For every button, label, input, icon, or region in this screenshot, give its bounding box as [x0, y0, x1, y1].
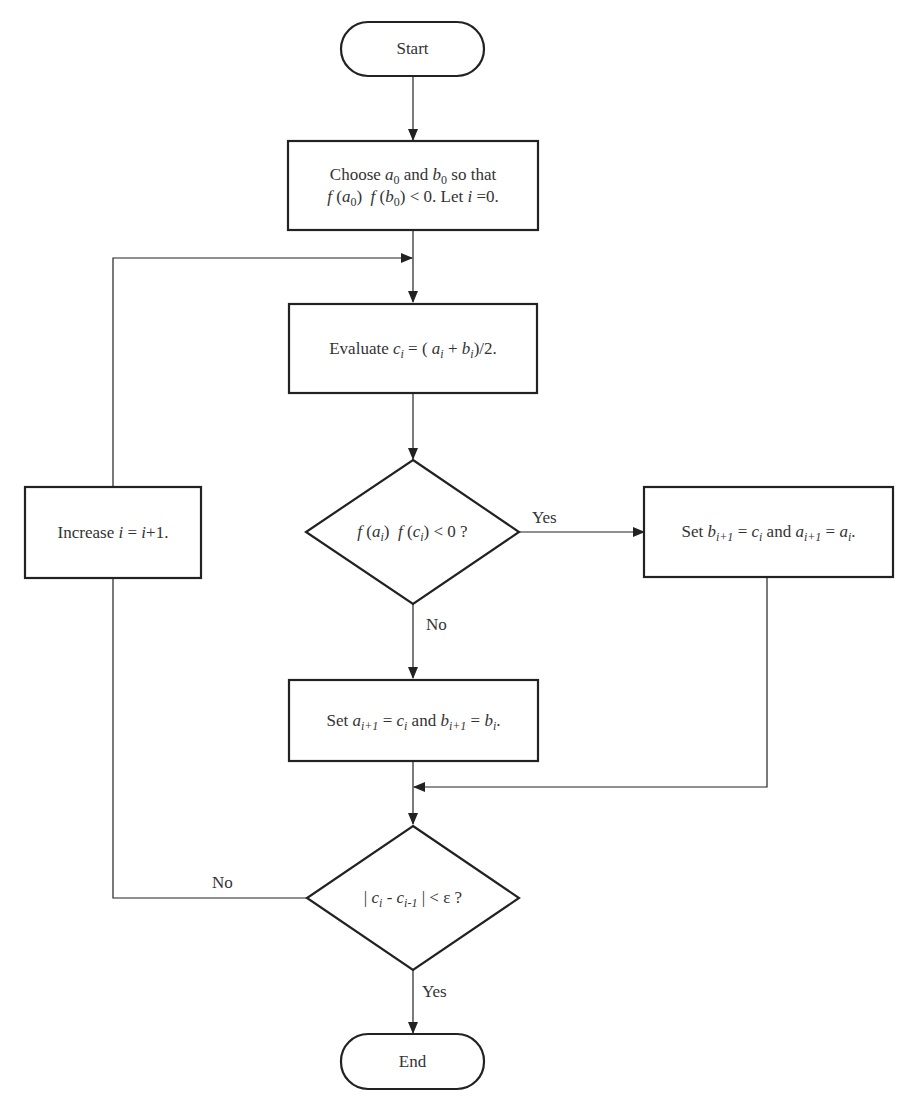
var-a: a [839, 522, 848, 541]
sub: 0 [350, 195, 356, 209]
sub: i+1 [716, 530, 733, 544]
edge-label-sign-yes: Yes [532, 508, 557, 528]
check-sign-node: f (ai) f (ci) < 0 ? [306, 460, 519, 604]
evaluate-text: Evaluate ci = ( ai + bi)/2. [329, 338, 497, 360]
init-text: < 0. Let [410, 187, 468, 206]
text: +1. [146, 523, 168, 542]
var-c: c [396, 711, 404, 730]
text: - [382, 888, 396, 907]
func-f: f [371, 187, 376, 206]
var-c: c [751, 522, 759, 541]
sub: 0 [394, 195, 400, 209]
evaluate-node: Evaluate ci = ( ai + bi)/2. [289, 304, 537, 393]
increase-text: Increase i = i+1. [58, 522, 169, 544]
text: Set [681, 522, 707, 541]
var-a: a [372, 522, 381, 541]
check-conv-node: | ci - ci-1 | < ε ? [307, 826, 519, 970]
init-text: so that [447, 165, 496, 184]
func-f: f [398, 522, 403, 541]
var-c: c [397, 888, 405, 907]
text: = [123, 523, 141, 542]
start-label: Start [396, 38, 428, 60]
start-node: Start [341, 22, 484, 76]
var-a: a [795, 522, 804, 541]
text: = [466, 711, 484, 730]
var-b: b [385, 187, 394, 206]
edge-label-conv-no: No [212, 873, 233, 893]
check-conv-text: | ci - ci-1 | < ε ? [364, 887, 462, 909]
text: | [364, 888, 372, 907]
text: Increase [58, 523, 119, 542]
func-f: f [327, 187, 332, 206]
text: . [496, 711, 500, 730]
text: and [407, 711, 440, 730]
var-a: a [385, 165, 394, 184]
set-b-text: Set bi+1 = ci and ai+1 = ai. [681, 521, 855, 543]
var-b: b [433, 165, 442, 184]
text: | [417, 888, 425, 907]
text: Evaluate [329, 339, 393, 358]
sub: i+1 [449, 719, 466, 733]
init-text: and [400, 165, 433, 184]
init-text: Choose [330, 165, 385, 184]
text: = ( [404, 339, 432, 358]
var-c: c [372, 888, 380, 907]
var-b: b [440, 711, 449, 730]
init-node: Choose a0 and b0 so that f (a0) f (b0) <… [288, 141, 538, 230]
sub: i [381, 530, 384, 544]
text: and [762, 522, 795, 541]
init-line-1: Choose a0 and b0 so that [330, 164, 496, 186]
set-a-text: Set ai+1 = ci and bi+1 = bi. [326, 710, 500, 732]
text: + [444, 339, 462, 358]
var-a: a [352, 711, 361, 730]
edge-label-sign-no: No [426, 615, 447, 635]
sub: i-1 [404, 896, 417, 910]
text: < 0 ? [429, 522, 467, 541]
edge-check-conv-no [113, 578, 307, 898]
set-b-node: Set bi+1 = ci and ai+1 = ai. [644, 487, 893, 577]
end-node: End [341, 1034, 484, 1089]
end-label: End [399, 1051, 426, 1073]
var-c: c [393, 339, 401, 358]
edge-label-conv-yes: Yes [422, 982, 447, 1002]
check-sign-text: f (ai) f (ci) < 0 ? [357, 521, 467, 543]
increase-node: Increase i = i+1. [25, 487, 201, 578]
init-line-2: f (a0) f (b0) < 0. Let i =0. [327, 186, 498, 208]
var-b: b [707, 522, 716, 541]
sub: i+1 [361, 719, 378, 733]
func-f: f [357, 522, 362, 541]
set-a-node: Set ai+1 = ci and bi+1 = bi. [289, 680, 538, 761]
init-text: =0. [472, 187, 499, 206]
text: . [851, 522, 855, 541]
text: < ε ? [425, 888, 462, 907]
var-b: b [484, 711, 493, 730]
text: = [733, 522, 751, 541]
text: )/2. [474, 339, 497, 358]
sub: i+1 [804, 530, 821, 544]
text: = [378, 711, 396, 730]
text: = [821, 522, 839, 541]
sub: i [420, 530, 423, 544]
var-b: b [462, 339, 471, 358]
text: Set [326, 711, 352, 730]
